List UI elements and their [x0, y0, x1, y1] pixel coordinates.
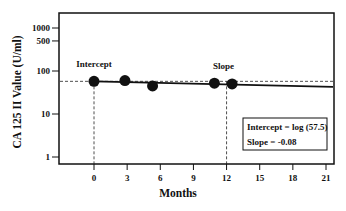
legend-slope: Slope = -0.08: [247, 137, 297, 147]
x-tick-label: 9: [191, 173, 196, 183]
chart: 1101005001000 036912151821 InterceptSlop…: [0, 0, 346, 211]
x-axis-label: Months: [159, 187, 197, 199]
data-point: [227, 78, 238, 89]
y-axis-ticks: 1101005001000: [32, 23, 59, 162]
x-tick-label: 0: [92, 173, 97, 183]
y-axis-label: CA 125 II Value (U/ml): [11, 35, 24, 148]
x-tick-label: 15: [255, 173, 265, 183]
annotations: InterceptSlope: [76, 59, 234, 71]
legend-intercept: Intercept = log (57.5): [247, 122, 327, 132]
y-tick-label: 1: [46, 152, 51, 162]
x-axis-ticks: 036912151821: [92, 164, 331, 183]
x-tick-label: 12: [222, 173, 232, 183]
x-tick-label: 18: [288, 173, 298, 183]
intercept-annotation: Intercept: [76, 59, 111, 69]
y-tick-label: 500: [37, 36, 51, 46]
data-point: [209, 78, 220, 89]
data-point: [119, 75, 130, 86]
data-point: [89, 76, 100, 87]
x-tick-label: 21: [322, 173, 332, 183]
slope-annotation: Slope: [213, 61, 234, 71]
x-tick-label: 6: [158, 173, 163, 183]
data-point: [147, 80, 158, 91]
legend-box: Intercept = log (57.5) Slope = -0.08: [243, 118, 327, 150]
y-tick-label: 10: [41, 109, 51, 119]
y-tick-label: 1000: [32, 23, 51, 33]
y-tick-label: 100: [37, 66, 51, 76]
x-tick-label: 3: [125, 173, 130, 183]
